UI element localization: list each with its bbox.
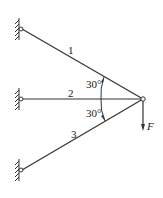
pin-joint: [141, 97, 145, 101]
wall-support-bottom: [15, 159, 19, 181]
bar-1: [22, 29, 143, 99]
bar-3: [22, 99, 143, 170]
force-label: F: [147, 121, 154, 132]
pin-bottom: [19, 168, 23, 172]
pin-middle: [19, 97, 23, 101]
arc-arrowhead-upper: [101, 77, 104, 83]
angle-label-lower: 30°: [86, 108, 101, 119]
bar-label-2: 2: [68, 88, 74, 99]
pin-top: [19, 27, 23, 31]
bar-label-3: 3: [71, 129, 77, 140]
diagram-graphics: [0, 0, 163, 198]
bar-label-1: 1: [68, 45, 74, 56]
angle-label-upper: 30°: [86, 79, 101, 90]
force-arrow-head: [141, 124, 145, 131]
wall-support-top: [15, 18, 19, 40]
truss-diagram: 1 2 3 30° 30° F: [0, 0, 163, 198]
arc-arrowhead-lower: [101, 115, 105, 121]
wall-support-middle: [15, 88, 19, 110]
